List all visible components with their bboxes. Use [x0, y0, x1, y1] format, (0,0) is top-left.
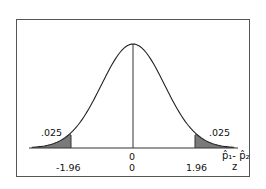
right-tail-area-label: .025: [209, 128, 230, 138]
axis-label-z: z: [232, 162, 237, 172]
tick-label-z-right: 1.96: [186, 163, 207, 173]
tick-label-z-left: -1.96: [56, 163, 81, 173]
left-tail-area-label: .025: [41, 128, 62, 138]
tick-label-z-center: 0: [129, 163, 135, 173]
axis-label-p-diff: p̂₁- p̂₂: [222, 151, 250, 161]
tick-label-diff-zero: 0: [129, 152, 135, 162]
